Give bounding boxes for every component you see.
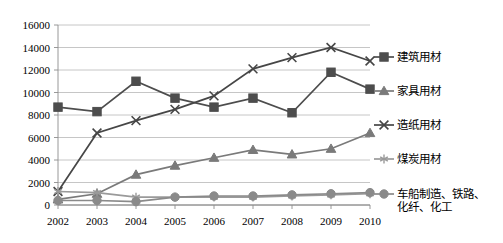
legend-item-4[interactable] <box>374 190 394 198</box>
x-tick-label: 2005 <box>164 215 187 227</box>
y-axis <box>54 25 58 205</box>
data-point-square <box>288 109 296 117</box>
data-point-circle <box>132 197 140 205</box>
data-point-square <box>132 77 140 85</box>
legend-label-0: 建筑用材 <box>397 51 441 64</box>
legend-markers <box>374 53 394 198</box>
x-tick-labels: 200220032004200520062007200820092010 <box>47 215 382 227</box>
y-tick-label: 2000 <box>28 177 51 189</box>
data-point-square <box>366 85 374 93</box>
x-tick-label: 2002 <box>47 215 69 227</box>
legend-label-2: 造纸用材 <box>397 119 441 132</box>
data-point-x <box>366 57 375 66</box>
data-point-circle <box>210 192 218 200</box>
line-chart: 0200040006000800010000120001400016000 20… <box>0 0 503 243</box>
data-point-circle <box>366 188 374 196</box>
data-point-x <box>132 116 141 125</box>
legend-label-4: 车船制造、铁路、 化纤、化工 <box>397 188 485 214</box>
legend-label-3: 煤炭用材 <box>397 153 441 166</box>
legend-item-1[interactable] <box>374 86 394 94</box>
data-point-circle <box>327 190 335 198</box>
legend-label-1: 家具用材 <box>397 85 441 98</box>
data-point-triangle <box>365 128 375 136</box>
data-point-square <box>327 68 335 76</box>
series-line <box>58 133 370 199</box>
data-point-circle <box>380 190 388 198</box>
data-point-square <box>54 103 62 111</box>
x-tick-label: 2006 <box>203 215 226 227</box>
x-tick-label: 2008 <box>281 215 304 227</box>
y-tick-labels: 0200040006000800010000120001400016000 <box>23 19 51 211</box>
x-tick-label: 2007 <box>242 215 265 227</box>
x-axis <box>58 205 370 209</box>
y-tick-label: 6000 <box>28 132 51 144</box>
data-point-square <box>171 94 179 102</box>
y-tick-label: 16000 <box>23 19 51 31</box>
x-tick-label: 2009 <box>320 215 343 227</box>
data-point-square <box>380 53 388 61</box>
y-tick-label: 14000 <box>23 42 51 54</box>
y-tick-label: 4000 <box>28 154 51 166</box>
data-point-x <box>249 64 258 73</box>
legend-item-0[interactable] <box>374 53 394 61</box>
gridlines <box>58 25 370 205</box>
y-tick-label: 10000 <box>23 87 51 99</box>
y-tick-label: 12000 <box>23 64 51 76</box>
data-point-circle <box>171 193 179 201</box>
data-point-square <box>210 103 218 111</box>
x-tick-label: 2004 <box>125 215 148 227</box>
data-point-square <box>249 94 257 102</box>
series-2 <box>54 43 375 196</box>
y-tick-label: 8000 <box>28 109 51 121</box>
data-point-square <box>93 107 101 115</box>
legend-item-2[interactable] <box>374 121 394 130</box>
data-point-x <box>93 129 102 138</box>
y-tick-label: 0 <box>45 199 51 211</box>
data-point-circle <box>288 191 296 199</box>
data-series <box>53 43 375 206</box>
data-point-x <box>171 105 180 114</box>
x-tick-label: 2010 <box>359 215 382 227</box>
data-point-triangle <box>248 145 258 153</box>
legend-item-3[interactable] <box>374 155 394 164</box>
data-point-circle <box>93 196 101 204</box>
data-point-circle <box>54 196 62 204</box>
data-point-circle <box>249 192 257 200</box>
series-line <box>58 48 370 192</box>
x-tick-label: 2003 <box>86 215 109 227</box>
